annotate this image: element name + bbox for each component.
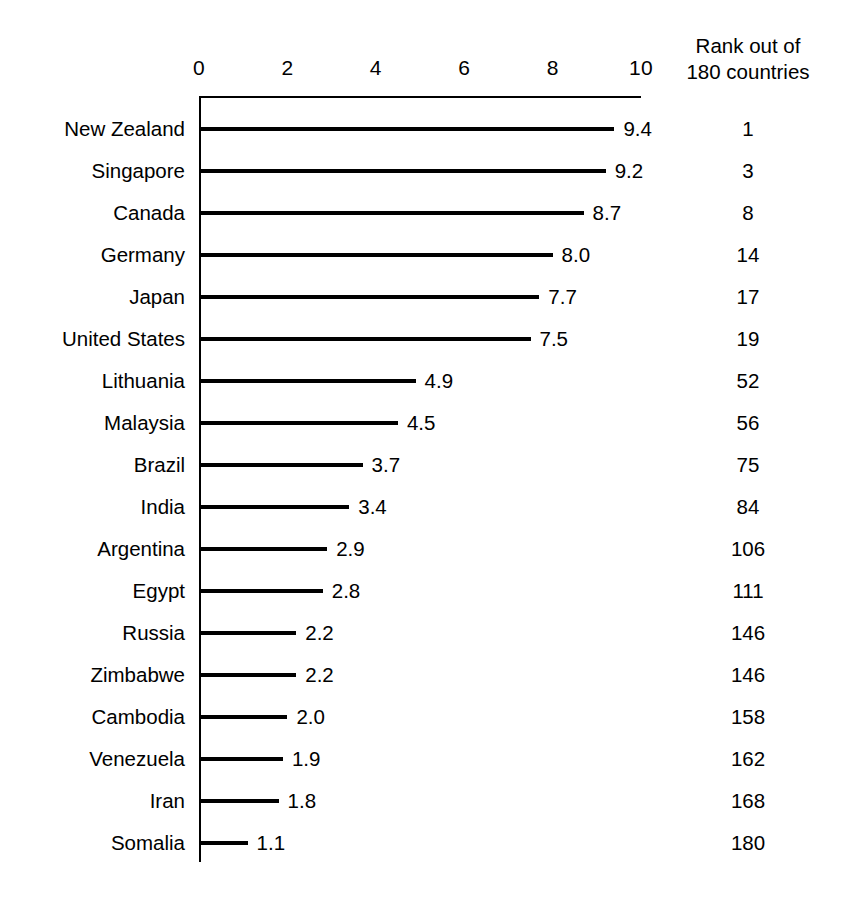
bar-chart: 0246810 Rank out of 180 countries New Ze… <box>0 0 844 909</box>
bar <box>199 547 327 551</box>
category-label: India <box>141 496 185 518</box>
category-label: Singapore <box>92 160 185 182</box>
bar <box>199 673 296 677</box>
chart-row: Venezuela1.9162 <box>0 738 844 780</box>
category-label: Malaysia <box>104 412 185 434</box>
bar-value-label: 8.7 <box>593 202 622 224</box>
category-label: Argentina <box>97 538 185 560</box>
chart-rows: New Zealand9.41Singapore9.23Canada8.78Ge… <box>0 0 844 909</box>
category-label: Venezuela <box>89 748 185 770</box>
category-label: New Zealand <box>64 118 185 140</box>
chart-row: Germany8.014 <box>0 234 844 276</box>
bar-value-label: 2.2 <box>305 622 334 644</box>
bar <box>199 211 584 215</box>
chart-row: Brazil3.775 <box>0 444 844 486</box>
category-label: Iran <box>150 790 185 812</box>
bar-value-label: 3.7 <box>372 454 401 476</box>
chart-row: Russia2.2146 <box>0 612 844 654</box>
bar-value-label: 2.9 <box>336 538 365 560</box>
bar-value-label: 4.9 <box>425 370 454 392</box>
bar <box>199 337 531 341</box>
bar-value-label: 4.5 <box>407 412 436 434</box>
chart-row: Somalia1.1180 <box>0 822 844 864</box>
chart-row: Argentina2.9106 <box>0 528 844 570</box>
chart-row: New Zealand9.41 <box>0 108 844 150</box>
rank-value: 146 <box>668 664 828 686</box>
bar-value-label: 7.5 <box>540 328 569 350</box>
chart-row: Malaysia4.556 <box>0 402 844 444</box>
bar-value-label: 9.4 <box>623 118 652 140</box>
bar <box>199 631 296 635</box>
category-label: Japan <box>129 286 185 308</box>
bar <box>199 127 614 131</box>
bar <box>199 463 363 467</box>
rank-value: 146 <box>668 622 828 644</box>
rank-value: 168 <box>668 790 828 812</box>
bar <box>199 589 323 593</box>
rank-value: 8 <box>668 202 828 224</box>
rank-value: 19 <box>668 328 828 350</box>
rank-value: 3 <box>668 160 828 182</box>
rank-value: 158 <box>668 706 828 728</box>
rank-value: 180 <box>668 832 828 854</box>
category-label: Brazil <box>134 454 185 476</box>
bar-value-label: 7.7 <box>548 286 577 308</box>
bar <box>199 757 283 761</box>
chart-row: Zimbabwe2.2146 <box>0 654 844 696</box>
bar <box>199 799 279 803</box>
bar-value-label: 1.8 <box>288 790 317 812</box>
rank-value: 1 <box>668 118 828 140</box>
rank-value: 56 <box>668 412 828 434</box>
rank-value: 84 <box>668 496 828 518</box>
bar <box>199 379 416 383</box>
rank-value: 75 <box>668 454 828 476</box>
category-label: Lithuania <box>102 370 185 392</box>
category-label: Russia <box>122 622 185 644</box>
rank-value: 106 <box>668 538 828 560</box>
rank-value: 111 <box>668 580 828 602</box>
rank-value: 52 <box>668 370 828 392</box>
chart-row: Lithuania4.952 <box>0 360 844 402</box>
bar <box>199 841 248 845</box>
bar <box>199 253 553 257</box>
chart-row: Cambodia2.0158 <box>0 696 844 738</box>
chart-row: India3.484 <box>0 486 844 528</box>
category-label: Canada <box>113 202 185 224</box>
rank-value: 17 <box>668 286 828 308</box>
rank-value: 162 <box>668 748 828 770</box>
bar <box>199 169 606 173</box>
bar-value-label: 1.1 <box>257 832 286 854</box>
bar-value-label: 2.8 <box>332 580 361 602</box>
bar-value-label: 3.4 <box>358 496 387 518</box>
chart-row: Singapore9.23 <box>0 150 844 192</box>
bar-value-label: 2.2 <box>305 664 334 686</box>
rank-value: 14 <box>668 244 828 266</box>
bar-value-label: 8.0 <box>562 244 591 266</box>
category-label: Egypt <box>133 580 185 602</box>
category-label: United States <box>62 328 185 350</box>
bar <box>199 715 287 719</box>
chart-row: Egypt2.8111 <box>0 570 844 612</box>
chart-row: Japan7.717 <box>0 276 844 318</box>
bar <box>199 421 398 425</box>
category-label: Cambodia <box>92 706 185 728</box>
bar-value-label: 9.2 <box>615 160 644 182</box>
chart-row: Canada8.78 <box>0 192 844 234</box>
category-label: Germany <box>101 244 185 266</box>
chart-row: United States7.519 <box>0 318 844 360</box>
chart-row: Iran1.8168 <box>0 780 844 822</box>
category-label: Zimbabwe <box>90 664 185 686</box>
bar-value-label: 1.9 <box>292 748 321 770</box>
category-label: Somalia <box>111 832 185 854</box>
bar <box>199 505 349 509</box>
bar <box>199 295 539 299</box>
bar-value-label: 2.0 <box>296 706 325 728</box>
